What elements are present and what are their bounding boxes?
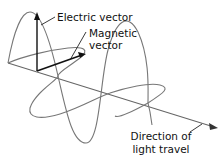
magnetic-vector-label-line1: Magnetic	[89, 27, 137, 39]
direction-label-line1: Direction of	[128, 130, 194, 142]
electric-vector-label: Electric vector	[57, 11, 133, 23]
electromagnetic-wave-diagram: Electric vector Magnetic vector Directio…	[0, 0, 224, 165]
magnetic-vector-label-line2: vector	[89, 39, 122, 51]
electric-leader-line	[41, 17, 55, 25]
direction-label-line2: light travel	[128, 143, 194, 155]
magnetic-vector-line	[37, 55, 82, 71]
electric-vector-arrowhead-icon	[34, 12, 40, 20]
magnetic-field-wave	[8, 47, 165, 117]
propagation-arrowhead-icon	[209, 123, 218, 130]
